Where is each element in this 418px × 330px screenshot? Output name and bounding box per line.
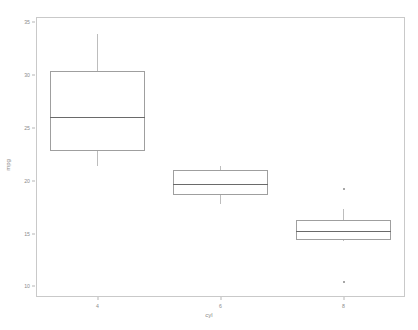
y-axis-tick-label: 35 [24,19,30,25]
x-axis-title: cyl [0,312,418,318]
y-axis-tick-mark [32,127,35,128]
x-axis-tick-mark [343,297,344,300]
y-axis-tick-label: 15 [24,231,30,237]
y-axis-tick-label: 10 [24,283,30,289]
x-axis-tick-label: 8 [342,303,345,309]
y-axis-tick-mark [32,180,35,181]
box-4 [50,71,145,151]
y-axis-tick-label: 25 [24,125,30,131]
y-axis-title: mpg [5,159,11,171]
median-line-6 [173,184,268,185]
y-axis-tick-label: 30 [24,72,30,78]
whisker-lower [343,240,344,241]
plot-panel [36,17,405,297]
whisker-lower [97,151,98,166]
whisker-upper [343,209,344,220]
median-line-4 [50,117,145,118]
boxplot-figure: 353025201510 468 cyl mpg [0,0,418,330]
outlier-point [343,281,345,283]
outlier-point [343,188,345,190]
y-axis-tick-label: 20 [24,178,30,184]
y-axis-tick-mark [32,75,35,76]
y-axis-tick-mark [32,286,35,287]
y-axis-tick-mark [32,22,35,23]
x-axis-tick-label: 6 [219,303,222,309]
x-axis-tick-mark [220,297,221,300]
y-axis-tick-mark [32,233,35,234]
x-axis-tick-mark [97,297,98,300]
box-8 [296,220,391,240]
box-6 [173,170,268,195]
median-line-8 [296,231,391,232]
whisker-upper [97,34,98,71]
whisker-lower [220,195,221,204]
x-axis-tick-label: 4 [96,303,99,309]
